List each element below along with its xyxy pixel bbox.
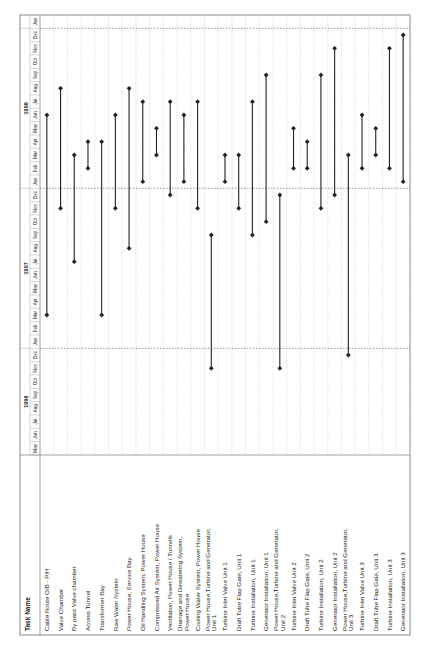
task-label: Turbine Installation, Unit 2 — [317, 559, 324, 631]
task-label: Turbine Inlet Valve Unit 1 — [221, 562, 228, 631]
month-label: Jul — [33, 99, 38, 105]
month-label: Jun — [33, 271, 38, 279]
month-label: Aug — [33, 244, 38, 253]
month-label: Jan — [33, 18, 38, 26]
task-label: Draft Tube Flap Gate, Unit 3 — [372, 553, 379, 631]
task-label: Generator Installation, Unit 1 — [262, 552, 269, 631]
month-label: Jun — [33, 431, 38, 439]
task-label: Oil Handling System, Power House — [139, 534, 146, 631]
month-label: Oct — [33, 377, 38, 385]
month-label: Nov — [33, 364, 38, 373]
month-label: Jul — [33, 419, 38, 425]
month-label: Mar — [33, 151, 38, 159]
task-label: Valve Chamber — [57, 589, 64, 631]
year-label: 1998 — [23, 102, 29, 114]
month-label: Oct — [33, 57, 38, 65]
task-label: Cable Route O/B - P/H — [43, 568, 50, 631]
month-label: May — [33, 123, 38, 132]
month-label: Dec — [33, 350, 38, 359]
month-label: Jul — [33, 259, 38, 265]
month-label: Nov — [33, 44, 38, 53]
month-label: Nov — [33, 204, 38, 213]
year-label: 1997 — [23, 262, 29, 274]
month-label: Oct — [33, 217, 38, 225]
month-label: Jun — [33, 111, 38, 119]
task-label: Ventilation, Power House / Tunnels — [166, 535, 173, 631]
task-label: Power House, Service Bay — [125, 556, 132, 631]
month-label: Apr — [33, 298, 38, 306]
task-label: Turbine Inlet Valve Unit 2 — [290, 562, 297, 631]
month-label: Mar — [33, 311, 38, 319]
month-label: Jan — [33, 338, 38, 346]
month-label: Dec — [33, 190, 38, 199]
month-label: Sep — [33, 70, 38, 79]
gantt-chart-page: Task Name 199619971998MayJunJulAugSepOct… — [0, 0, 425, 657]
task-label: Turbine Inlet Valve Unit 3 — [358, 562, 365, 631]
task-label: Turbine Installation, Unit 3 — [386, 559, 393, 631]
month-label: Feb — [33, 164, 38, 172]
task-label: Generator Installation, Unit 2 — [331, 552, 338, 631]
year-label: 1996 — [23, 396, 29, 408]
gantt-chart: Task Name 199619971998MayJunJulAugSepOct… — [0, 0, 425, 657]
task-label: Access Tunnel — [84, 591, 91, 631]
task-label: Compressed Air System, Power House — [153, 523, 160, 631]
month-label: Apr — [33, 138, 38, 146]
task-label: Draft Tube Flap Gate, Unit 2 — [303, 553, 310, 631]
month-label: Aug — [33, 404, 38, 413]
month-label: Dec — [33, 30, 38, 39]
task-name-column: Task Name — [24, 597, 31, 631]
month-label: Sep — [33, 390, 38, 399]
month-label: Aug — [33, 84, 38, 93]
task-column-header: Task Name — [24, 597, 31, 631]
task-label: Generator Installation, Unit 3 — [399, 552, 406, 631]
task-label: By pass Valve chamber — [70, 566, 77, 631]
month-label: Feb — [33, 324, 38, 332]
task-label: Raw Water System — [112, 578, 119, 631]
task-label: Draft Tube Flap Gate, Unit 1 — [235, 553, 242, 631]
month-label: Sep — [33, 230, 38, 239]
chart-frame — [20, 15, 410, 635]
month-label: Jan — [33, 178, 38, 186]
task-label: Turbine Installation, Unit 1 — [249, 559, 256, 631]
task-label: Cooling Water System, Power House — [194, 529, 201, 631]
month-label: May — [33, 443, 38, 452]
task-label: Transformer Bay — [98, 584, 105, 631]
month-label: May — [33, 283, 38, 292]
